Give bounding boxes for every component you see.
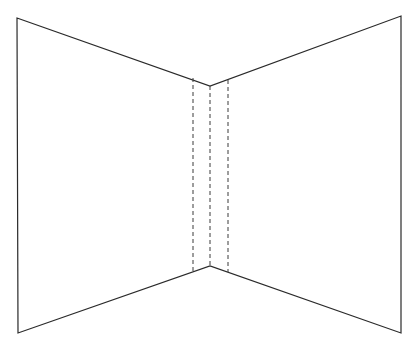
dashed-guide-lines [193, 78, 228, 272]
room-corner-diagram [0, 0, 417, 349]
room-outline [17, 16, 401, 333]
